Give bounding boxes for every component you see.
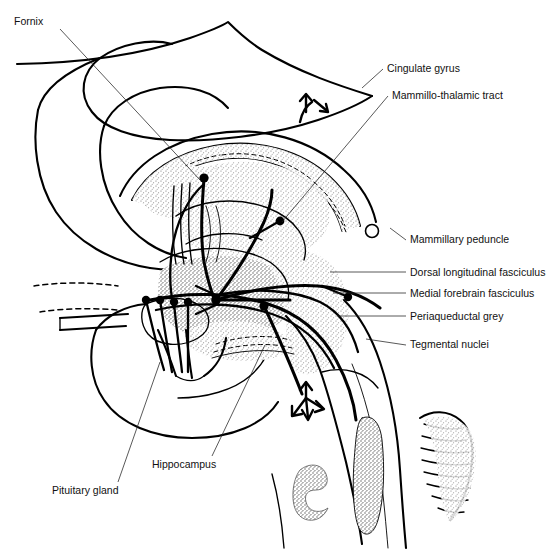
fornix-origin-bulb — [199, 173, 208, 182]
label-cingulate-gyrus: Cingulate gyrus — [387, 62, 460, 74]
figure-canvas: Fornix Cingulate gyrus Mammillo-thalamic… — [0, 0, 560, 553]
label-periaqueductal-grey: Periaqueductal grey — [410, 310, 504, 322]
label-mammillo-thalamic-tract: Mammillo-thalamic tract — [392, 89, 503, 101]
habenular-nucleus — [366, 225, 379, 238]
label-medial-forebrain-fasciculus: Medial forebrain fasciculus — [410, 287, 534, 299]
label-dorsal-longitudinal-fasciculus: Dorsal longitudinal fasciculus — [410, 266, 545, 278]
brain-sagittal-diagram: Fornix Cingulate gyrus Mammillo-thalamic… — [0, 0, 560, 553]
label-hippocampus: Hippocampus — [152, 458, 216, 470]
descending-tegmental-arrow — [292, 382, 324, 420]
label-pituitary-gland: Pituitary gland — [52, 484, 119, 496]
label-fornix: Fornix — [14, 15, 44, 27]
label-mammillary-peduncle: Mammillary peduncle — [410, 233, 509, 245]
tegmental-branch-bulb — [344, 293, 352, 301]
olivary-nucleus-shading — [293, 465, 328, 520]
cerebellum-shading — [424, 417, 476, 522]
label-tegmental-nuclei: Tegmental nuclei — [410, 338, 489, 350]
descending-tract-bulb — [259, 301, 268, 310]
